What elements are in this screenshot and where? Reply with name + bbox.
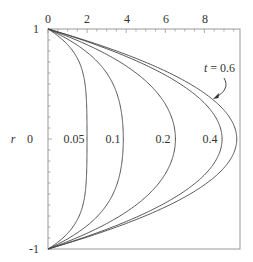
- annotation-t-0.6: t = 0.6: [204, 61, 235, 75]
- x-tick-label-4: 4: [124, 12, 130, 26]
- y-axis-label: r: [11, 132, 16, 146]
- x-axis-ticks: [48, 29, 234, 33]
- annotation-arrow-icon: [216, 78, 226, 97]
- curve-label-0.1: 0.1: [106, 132, 121, 146]
- curve-label-0.2: 0.2: [156, 132, 171, 146]
- y-tick-label-minus1: -1: [29, 242, 39, 256]
- y-tick-label-1: 1: [33, 22, 39, 36]
- velocity-profile-chart: 0 2 4 6 8 1 0 -1 r 0.05 0.1 0.2 0.4 t = …: [0, 0, 253, 262]
- curve-label-0.05: 0.05: [64, 132, 85, 146]
- curve-label-0.4: 0.4: [203, 132, 218, 146]
- x-tick-label-6: 6: [163, 12, 169, 26]
- arrowhead-icon: [213, 93, 219, 99]
- y-tick-label-0: 0: [27, 132, 33, 146]
- y-axis-ticks: [48, 29, 52, 249]
- x-tick-label-8: 8: [202, 12, 208, 26]
- x-tick-label-2: 2: [84, 12, 90, 26]
- x-tick-label-0: 0: [45, 12, 51, 26]
